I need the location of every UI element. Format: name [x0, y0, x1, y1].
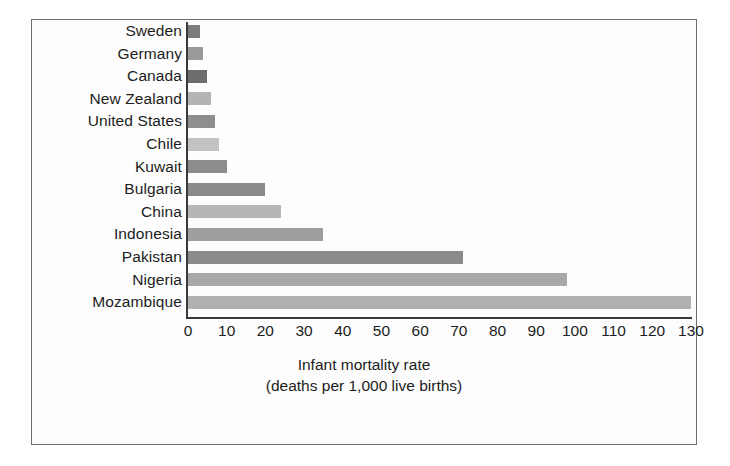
chart-frame: SwedenGermanyCanadaNew ZealandUnited Sta… — [31, 19, 697, 445]
bar — [188, 70, 207, 83]
x-tick-label: 110 — [601, 322, 626, 340]
bar — [188, 273, 567, 286]
category-label: Mozambique — [92, 292, 182, 312]
category-label: Germany — [118, 44, 182, 64]
x-tick-label: 40 — [334, 322, 351, 340]
bar — [188, 251, 463, 264]
x-tick-label: 60 — [412, 322, 429, 340]
x-tick-label: 30 — [295, 322, 312, 340]
bar — [188, 138, 219, 151]
bar-chart: SwedenGermanyCanadaNew ZealandUnited Sta… — [32, 20, 696, 444]
x-tick-label: 120 — [639, 322, 665, 340]
x-axis-title-line: Infant mortality rate — [32, 354, 696, 375]
x-tick-label: 0 — [184, 322, 193, 340]
category-axis-labels: SwedenGermanyCanadaNew ZealandUnited Sta… — [32, 20, 182, 320]
category-label: New Zealand — [90, 89, 182, 109]
x-tick-label: 100 — [562, 322, 588, 340]
category-label: China — [141, 202, 182, 222]
category-label: Kuwait — [135, 157, 182, 177]
bar — [188, 228, 323, 241]
category-label: United States — [88, 111, 182, 131]
bar — [188, 115, 215, 128]
category-label: Indonesia — [114, 224, 182, 244]
category-label: Bulgaria — [124, 179, 182, 199]
category-label: Sweden — [125, 21, 182, 41]
category-label: Chile — [146, 134, 182, 154]
x-axis-line — [186, 317, 692, 319]
bar — [188, 92, 211, 105]
x-tick-label: 80 — [489, 322, 506, 340]
x-tick-label: 130 — [678, 322, 704, 340]
category-label: Nigeria — [132, 270, 182, 290]
category-label: Pakistan — [122, 247, 182, 267]
bar — [188, 160, 227, 173]
bar — [188, 296, 691, 309]
bars-and-axes: 0102030405060708090100110120130 — [186, 20, 692, 320]
x-tick-label: 70 — [450, 322, 467, 340]
x-tick-label: 50 — [373, 322, 390, 340]
bar — [188, 47, 203, 60]
x-axis-title-line: (deaths per 1,000 live births) — [32, 375, 696, 396]
x-tick-label: 10 — [218, 322, 235, 340]
category-label: Canada — [127, 66, 182, 86]
bar — [188, 25, 200, 38]
x-axis-title: Infant mortality rate(deaths per 1,000 l… — [32, 354, 696, 396]
x-tick-label: 90 — [528, 322, 545, 340]
bar — [188, 205, 281, 218]
x-tick-label: 20 — [257, 322, 274, 340]
bar — [188, 183, 265, 196]
